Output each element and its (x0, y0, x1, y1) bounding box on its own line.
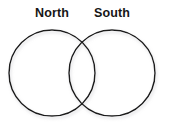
venn-label-south: South (76, 7, 148, 20)
venn-circle-south (69, 30, 155, 116)
venn-diagram-figure: North South (0, 0, 169, 126)
